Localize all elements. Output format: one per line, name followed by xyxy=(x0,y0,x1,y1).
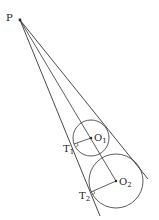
label-o1: O1 xyxy=(94,132,107,145)
geometry-diagram: P O1 T1 O2 T2 xyxy=(0,0,159,220)
right-tangent-line xyxy=(20,20,148,179)
label-t1: T1 xyxy=(63,143,74,156)
radius-o2-t2 xyxy=(91,181,116,192)
radius-o1-t1 xyxy=(74,138,91,144)
point-p xyxy=(19,19,22,22)
center-line xyxy=(20,20,116,181)
label-o2: O2 xyxy=(119,176,132,189)
point-o1 xyxy=(90,137,92,139)
right-angle-mark-t1 xyxy=(76,143,78,146)
left-tangent-line xyxy=(20,20,100,216)
label-t2: T2 xyxy=(79,190,90,203)
label-p: P xyxy=(6,12,13,23)
point-o2 xyxy=(115,180,117,182)
